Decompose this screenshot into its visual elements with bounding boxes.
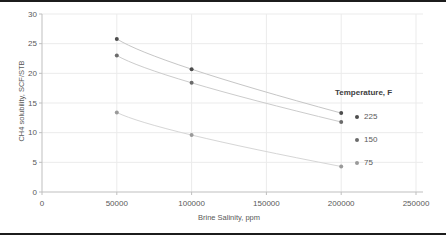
y-tick-label: 25 <box>28 39 37 48</box>
trendline-75 <box>117 112 341 166</box>
x-tick-label: 0 <box>40 199 45 208</box>
x-tick-label: 50000 <box>106 199 129 208</box>
data-point <box>190 133 194 137</box>
data-point <box>190 67 194 71</box>
legend-item-label: 150 <box>364 135 377 144</box>
trendline-150 <box>117 56 341 122</box>
legend-marker-icon <box>355 138 359 142</box>
legend-item-225: 225 <box>355 111 392 121</box>
y-tick-label: 30 <box>28 10 37 19</box>
y-tick-label: 15 <box>28 99 37 108</box>
x-axis-title: Brine Salinity, ppm <box>42 213 416 222</box>
y-tick-label: 5 <box>33 158 38 167</box>
y-tick-label: 0 <box>33 188 38 197</box>
y-tick-label: 10 <box>28 128 37 137</box>
legend-item-label: 225 <box>364 112 377 121</box>
data-point <box>115 110 119 114</box>
legend-item-75: 75 <box>355 157 392 167</box>
legend-title: Temperature, F <box>333 88 392 97</box>
data-point <box>115 37 119 41</box>
legend: Temperature, F 22515075 <box>333 88 392 180</box>
legend-item-label: 75 <box>364 158 373 167</box>
legend-marker-icon <box>355 115 359 119</box>
trendline-225 <box>117 39 341 113</box>
x-tick-label: 250000 <box>403 199 430 208</box>
y-axis-title: CH4 solubility, SCF/STB <box>17 60 26 141</box>
legend-items: 22515075 <box>333 111 392 167</box>
legend-marker-icon <box>355 161 359 165</box>
legend-item-150: 150 <box>355 134 392 144</box>
x-tick-label: 150000 <box>253 199 280 208</box>
x-tick-label: 200000 <box>328 199 355 208</box>
x-tick-label: 100000 <box>178 199 205 208</box>
y-tick-label: 20 <box>28 69 37 78</box>
data-point <box>190 81 194 85</box>
data-point <box>115 54 119 58</box>
chart-figure: 0500001000001500002000002500000510152025… <box>0 0 446 235</box>
